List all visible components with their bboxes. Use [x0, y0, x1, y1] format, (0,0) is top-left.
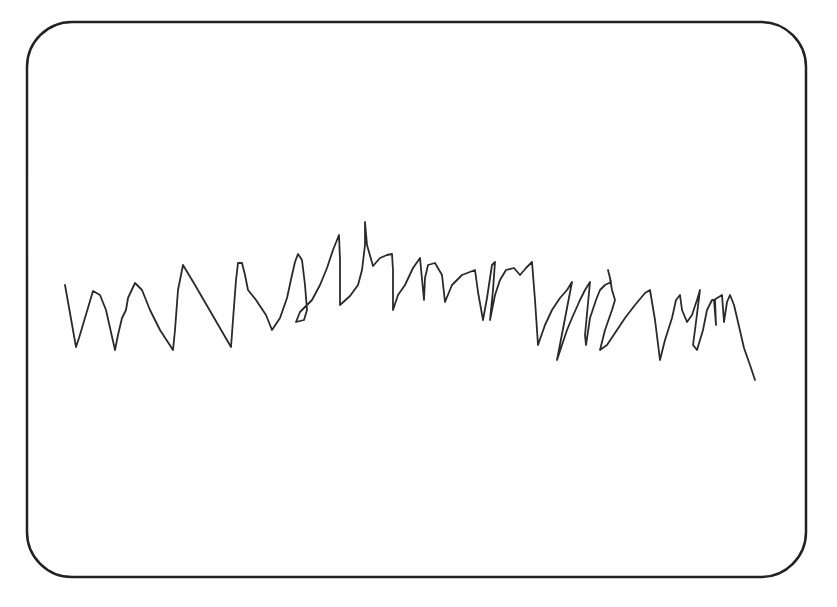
scribble-line — [65, 222, 755, 380]
drawing-canvas — [0, 0, 837, 607]
rounded-frame-border — [27, 22, 806, 577]
